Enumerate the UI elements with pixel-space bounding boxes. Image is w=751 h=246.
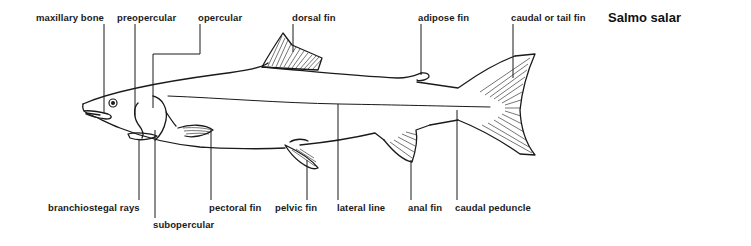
caudal-fin-outline bbox=[458, 54, 535, 155]
species-title: Salmo salar bbox=[608, 10, 681, 25]
label-subopercular: subopercular bbox=[153, 219, 214, 230]
anal-fin-outline bbox=[384, 125, 430, 162]
label-caudal-fin: caudal or tail fin bbox=[511, 12, 586, 23]
snout-outline bbox=[83, 104, 88, 114]
label-anal-fin: anal fin bbox=[408, 202, 442, 213]
body-dorsal-outline bbox=[83, 63, 268, 104]
label-dorsal-fin: dorsal fin bbox=[292, 12, 336, 23]
label-adipose-fin: adipose fin bbox=[418, 12, 469, 23]
label-branchiostegal-rays: branchiostegal rays bbox=[48, 202, 140, 213]
pectoral-fin-outline bbox=[178, 125, 213, 137]
belly-mid bbox=[300, 133, 384, 145]
label-lateral-line: lateral line bbox=[337, 202, 385, 213]
leader-opercular bbox=[153, 24, 200, 108]
label-pelvic-fin: pelvic fin bbox=[275, 202, 317, 213]
gill-flap bbox=[166, 112, 176, 126]
back-outline bbox=[262, 67, 421, 78]
salmon-anatomy-diagram: maxillary bone preopercular opercular do… bbox=[0, 0, 751, 246]
label-maxillary-bone: maxillary bone bbox=[36, 12, 104, 23]
dorsal-fin-outline bbox=[262, 33, 322, 70]
peduncle-top bbox=[417, 56, 515, 88]
lateral-line bbox=[168, 96, 490, 107]
label-caudal-peduncle: caudal peduncle bbox=[455, 202, 531, 213]
label-opercular: opercular bbox=[198, 12, 242, 23]
label-preopercular: preopercular bbox=[117, 12, 176, 23]
label-pectoral-fin: pectoral fin bbox=[209, 202, 261, 213]
belly-rear bbox=[430, 120, 458, 125]
belly-front bbox=[88, 114, 285, 149]
